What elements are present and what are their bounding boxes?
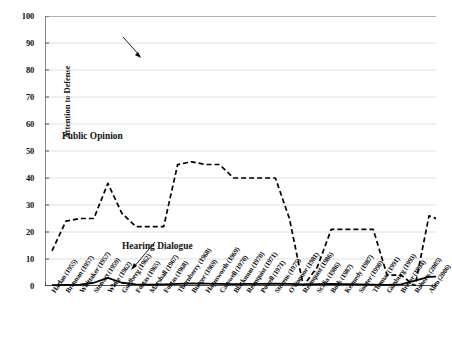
public-opinion-arrow-head [135, 52, 141, 58]
y-tick-10: 10 [8, 254, 34, 264]
y-tick-80: 80 [8, 65, 34, 75]
y-tick-20: 20 [8, 227, 34, 237]
y-tick-60: 60 [8, 119, 34, 129]
annotation-public-opinion: Public Opinion [62, 131, 123, 141]
annotation-arrows [123, 37, 155, 270]
y-tick-30: 30 [8, 200, 34, 210]
y-tick-0: 0 [8, 281, 34, 291]
y-tick-100: 100 [8, 11, 34, 21]
y-tick-90: 90 [8, 38, 34, 48]
y-tick-70: 70 [8, 92, 34, 102]
chart-svg [45, 16, 436, 286]
annotation-hearing-dialogue: Hearing Dialogue [122, 241, 193, 251]
y-tick-40: 40 [8, 173, 34, 183]
plot-area [45, 16, 436, 286]
y-tick-50: 50 [8, 146, 34, 156]
